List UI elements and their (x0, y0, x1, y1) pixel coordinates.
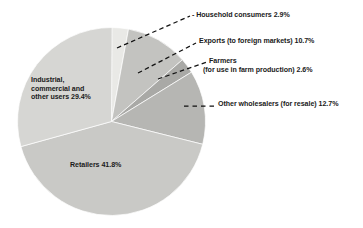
slice-label-retailers: Retailers 41.8% (70, 161, 121, 170)
slice-label-exports: Exports (to foreign markets) 10.7% (199, 37, 314, 46)
slice-label-farmers-line1: Farmers (209, 57, 237, 66)
slice-label-farmers-line2: (for use in farm production) 2.6% (203, 66, 313, 75)
slice-label-household-consumers: - Household consumers 2.9% (192, 11, 290, 20)
slice-label-industrial-commercial: Industrial, commercial and other users 2… (31, 76, 97, 102)
pie-slices-group (17, 27, 205, 215)
slice-label-other-wholesalers: Other wholesalers (for resale) 12.7% (218, 100, 338, 109)
pie-chart-figure: - Household consumers 2.9% Exports (to f… (0, 0, 363, 228)
pie-chart-canvas (0, 0, 363, 228)
